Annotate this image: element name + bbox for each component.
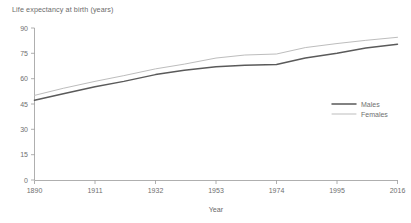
legend-label-females: Females xyxy=(361,111,388,118)
y-tick-label: 45 xyxy=(20,101,28,108)
y-tick-label: 60 xyxy=(20,75,28,82)
series-line-males xyxy=(35,44,398,100)
y-tick-label: 0 xyxy=(24,177,28,184)
y-tick-label: 75 xyxy=(20,50,28,57)
y-axis-ticks xyxy=(31,28,35,180)
legend-label-males: Males xyxy=(361,101,380,108)
x-tick-label: 2016 xyxy=(390,187,406,194)
data-series-group xyxy=(35,37,398,100)
x-axis-ticks xyxy=(35,181,398,185)
y-tick-label: 15 xyxy=(20,151,28,158)
x-tick-label: 1953 xyxy=(208,187,224,194)
y-tick-label: 90 xyxy=(20,25,28,32)
x-tick-label: 1911 xyxy=(87,187,102,194)
x-axis-title: Year xyxy=(209,205,224,214)
x-tick-label: 1890 xyxy=(27,187,43,194)
x-tick-label: 1932 xyxy=(148,187,164,194)
y-tick-label: 30 xyxy=(20,126,28,133)
y-axis: 0 15 30 45 60 75 90 xyxy=(20,25,34,184)
y-axis-tick-labels: 0 15 30 45 60 75 90 xyxy=(20,25,28,184)
chart-plot-area: 0 15 30 45 60 75 90 1890 19 xyxy=(0,0,411,223)
x-axis-tick-labels: 1890 1911 1932 1953 1974 1995 2016 xyxy=(27,187,406,194)
x-tick-label: 1974 xyxy=(269,187,285,194)
x-axis: 1890 1911 1932 1953 1974 1995 2016 Year xyxy=(27,181,406,215)
x-tick-label: 1995 xyxy=(329,187,345,194)
chart-container: Life expectancy at birth (years) 0 15 30… xyxy=(0,0,411,223)
legend: Males Females xyxy=(332,101,388,118)
